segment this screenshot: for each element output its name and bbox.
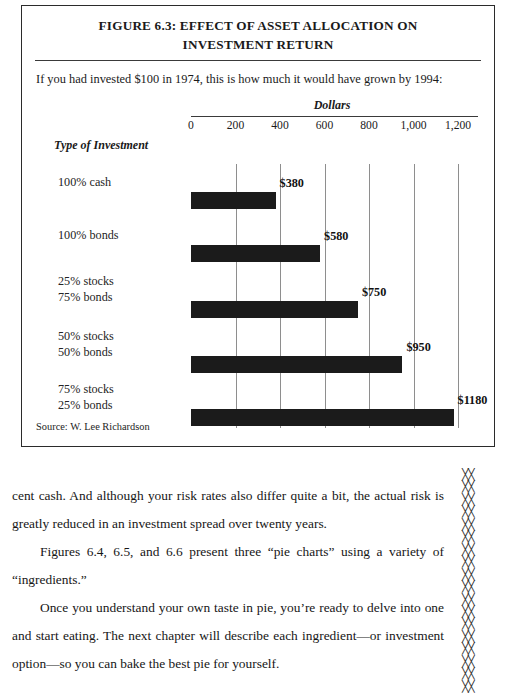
x-tick-label-0: 0 (188, 119, 194, 132)
bar-chart: Dollars 02004006008001,0001,200 Type of … (22, 6, 494, 446)
bar-value-label: $950 (406, 340, 430, 355)
bar-category-label-line-1: 50% stocks (58, 329, 114, 343)
x-tick-label-1200: 1,200 (445, 119, 471, 132)
x-tick-label-600: 600 (316, 119, 333, 132)
margin-mark: ╳╳ (462, 580, 496, 592)
bar-value-label: $1180 (458, 393, 488, 408)
bar-row: 50% stocks50% bonds$950 (22, 325, 494, 377)
margin-mark: ╳╳ (462, 667, 496, 679)
bar-rect (191, 192, 276, 209)
margin-mark: ╳╳ (462, 555, 496, 567)
bar-category-label-line-2: 25% bonds (58, 397, 188, 413)
x-axis-title: Dollars (192, 98, 472, 113)
x-tick-label-1000: 1,000 (400, 119, 426, 132)
y-axis-title: Type of Investment (54, 138, 148, 153)
bar-value-label: $580 (324, 229, 348, 244)
bar-row: 100% bonds$580 (22, 217, 494, 269)
body-paragraph-2: Figures 6.4, 6.5, and 6.6 present three … (12, 538, 444, 594)
x-axis-tick-labels: 02004006008001,0001,200 (182, 119, 502, 137)
margin-mark: ╳╳ (462, 480, 496, 492)
body-paragraph-1: cent cash. And although your risk rates … (12, 482, 444, 538)
bar-category-label-line-1: 100% cash (58, 175, 111, 189)
x-tick-label-200: 200 (227, 119, 244, 132)
bar-row: 25% stocks75% bonds$750 (22, 270, 494, 322)
margin-mark: ╳╳ (462, 593, 496, 605)
x-axis-rule (191, 116, 478, 117)
bar-category-label-line-1: 100% bonds (58, 228, 119, 242)
margin-mark: ╳╳ (462, 568, 496, 580)
bar-category-label-line-1: 25% stocks (58, 274, 114, 288)
bar-rect (191, 301, 358, 318)
bar-category-label: 100% cash (58, 174, 188, 190)
bar-rect (191, 356, 402, 373)
bar-value-label: $380 (280, 176, 304, 191)
margin-mark-column: ╳╳╳╳╳╳╳╳╳╳╳╳╳╳╳╳╳╳╳╳╳╳╳╳╳╳╳╳╳╳╳╳╳╳╳╳ (462, 468, 496, 692)
margin-mark: ╳╳ (462, 680, 496, 692)
bar-category-label-line-1: 75% stocks (58, 382, 114, 396)
margin-mark: ╳╳ (462, 493, 496, 505)
figure-box: FIGURE 6.3: EFFECT OF ASSET ALLOCATION O… (21, 5, 495, 447)
body-text: cent cash. And although your risk rates … (12, 482, 444, 678)
margin-mark: ╳╳ (462, 543, 496, 555)
bar-value-label: $750 (362, 285, 386, 300)
margin-mark: ╳╳ (462, 630, 496, 642)
margin-mark: ╳╳ (462, 655, 496, 667)
margin-mark: ╳╳ (462, 617, 496, 629)
bar-category-label: 75% stocks25% bonds (58, 381, 188, 413)
bar-row: 100% cash$380 (22, 164, 494, 216)
bar-rect (191, 245, 320, 262)
margin-mark: ╳╳ (462, 468, 496, 480)
bar-category-label: 50% stocks50% bonds (58, 328, 188, 360)
x-tick-label-400: 400 (271, 119, 288, 132)
bar-category-label: 25% stocks75% bonds (58, 273, 188, 305)
bar-category-label: 100% bonds (58, 227, 188, 243)
bar-rows: 100% cash$380100% bonds$58025% stocks75%… (22, 164, 494, 434)
bar-category-label-line-2: 50% bonds (58, 344, 188, 360)
margin-mark: ╳╳ (462, 505, 496, 517)
bar-category-label-line-2: 75% bonds (58, 289, 188, 305)
margin-mark: ╳╳ (462, 642, 496, 654)
margin-mark: ╳╳ (462, 530, 496, 542)
figure-source: Source: W. Lee Richardson (36, 421, 150, 432)
bar-rect (191, 409, 454, 426)
x-tick-label-800: 800 (360, 119, 377, 132)
margin-mark: ╳╳ (462, 518, 496, 530)
margin-mark: ╳╳ (462, 605, 496, 617)
body-paragraph-3: Once you understand your own taste in pi… (12, 594, 444, 678)
